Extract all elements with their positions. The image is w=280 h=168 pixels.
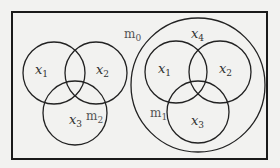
label-m1: m1 — [150, 106, 167, 122]
right-label-x3: x3 — [191, 113, 204, 130]
venn-diagram: m0 x1 x2 x3 m2 x4 x1 x2 x3 m1 — [0, 0, 280, 168]
right-circle-x3 — [167, 81, 229, 143]
label-m0: m0 — [124, 27, 141, 43]
label-m2: m2 — [86, 109, 103, 125]
right-label-x2: x2 — [219, 61, 232, 78]
left-label-x2: x2 — [96, 62, 109, 79]
right-label-x1: x1 — [158, 61, 171, 78]
left-label-x1: x1 — [35, 62, 48, 79]
left-venn — [23, 42, 127, 145]
left-circle-x1 — [23, 42, 85, 104]
right-label-x4: x4 — [191, 26, 204, 43]
left-label-x3: x3 — [69, 112, 82, 129]
